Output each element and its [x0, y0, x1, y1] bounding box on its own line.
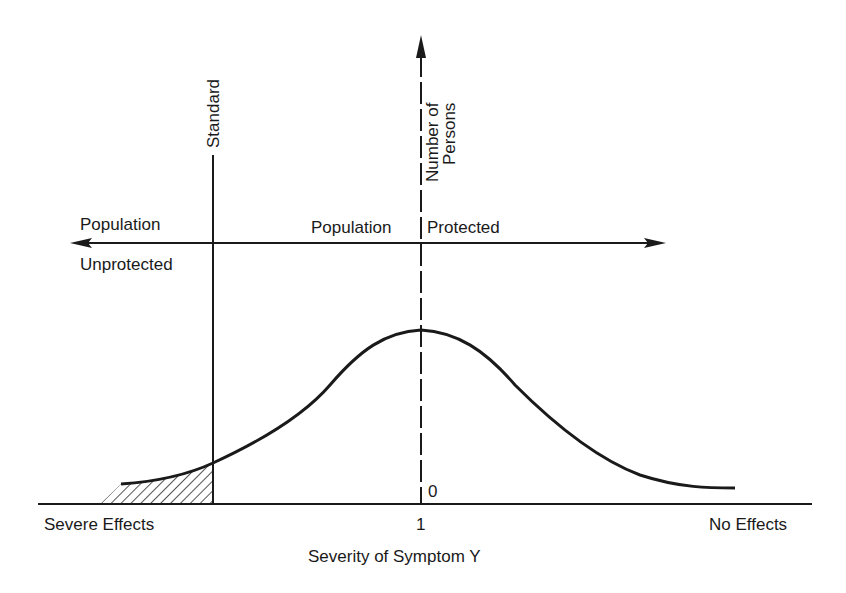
population-protected-label-right: Protected — [427, 218, 500, 237]
y-axis-label-line2: Persons — [440, 103, 459, 165]
severity-diagram: Standard Number of Persons Population Un… — [0, 0, 846, 593]
x-label-no-effects: No Effects — [709, 515, 787, 534]
standard-label: Standard — [204, 79, 223, 148]
y-axis-arrow-icon — [416, 35, 426, 58]
population-unprotected-label-top: Population — [80, 215, 160, 234]
origin-zero-label: 0 — [428, 482, 437, 501]
x-axis-title: Severity of Symptom Y — [308, 547, 481, 566]
x-label-severe-effects: Severe Effects — [44, 515, 154, 534]
population-protected-label-left: Population — [311, 218, 391, 237]
population-unprotected-label-bottom: Unprotected — [80, 255, 173, 274]
x-label-center-one: 1 — [416, 515, 425, 534]
